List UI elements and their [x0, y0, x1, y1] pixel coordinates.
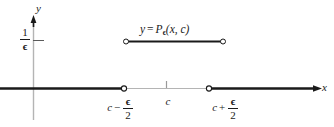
tick-left-fraction: ϵ 2 — [123, 96, 133, 121]
fraction-denominator: ϵ — [20, 41, 30, 53]
x-tick-label-left-endpoint: c− ϵ 2 — [96, 96, 144, 121]
tick-right-operator: + — [217, 101, 227, 113]
equation-function-name: P — [156, 23, 163, 35]
graph-canvas — [0, 0, 334, 127]
fraction-one-over-epsilon: 1 ϵ — [20, 27, 30, 52]
x-axis-label: x — [322, 82, 327, 93]
y-axis-tick-label-one-over-epsilon: 1 ϵ — [15, 27, 35, 52]
curve-equation-label: y=Pϵ(x, c) — [140, 24, 189, 36]
fraction-numerator: 1 — [20, 27, 30, 39]
x-tick-label-center: c — [158, 96, 178, 107]
tick-right-numerator: ϵ — [228, 96, 238, 108]
pulse-top-right-open-point — [221, 39, 226, 44]
pulse-top-left-open-point — [124, 39, 129, 44]
tick-right-fraction: ϵ 2 — [228, 96, 238, 121]
equation-arguments: (x, c) — [166, 23, 190, 35]
x-tick-label-right-endpoint: c+ ϵ 2 — [201, 96, 249, 121]
x-axis-arrowhead — [313, 85, 322, 92]
x-axis-left-open-point — [121, 86, 126, 91]
tick-left-numerator: ϵ — [123, 96, 133, 108]
tick-left-operator: − — [112, 101, 122, 113]
equation-equals-sign: = — [145, 23, 156, 35]
y-axis-label: y — [36, 3, 41, 14]
tick-right-denominator: 2 — [228, 110, 238, 122]
x-axis-right-open-point — [206, 86, 211, 91]
tick-left-denominator: 2 — [123, 110, 133, 122]
pulse-function-figure: y x 1 ϵ y=Pϵ(x, c) c− ϵ 2 c c+ ϵ 2 — [0, 0, 334, 127]
